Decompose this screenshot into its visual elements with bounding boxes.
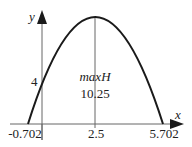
max-height-value: 10.25 (80, 86, 109, 101)
tick-left-root: -0.702 (8, 126, 42, 141)
y-axis-label: y (27, 9, 35, 24)
y-intercept-label: 4 (31, 74, 38, 89)
x-axis-label: x (174, 107, 181, 122)
max-height-label: maxH (79, 69, 111, 84)
parabola-chart: y x 4 maxH 10.25 -0.702 2.5 5.702 (0, 0, 192, 147)
tick-vertex: 2.5 (88, 126, 104, 141)
tick-right-root: 5.702 (149, 126, 178, 141)
y-axis-arrow-icon (37, 10, 47, 24)
